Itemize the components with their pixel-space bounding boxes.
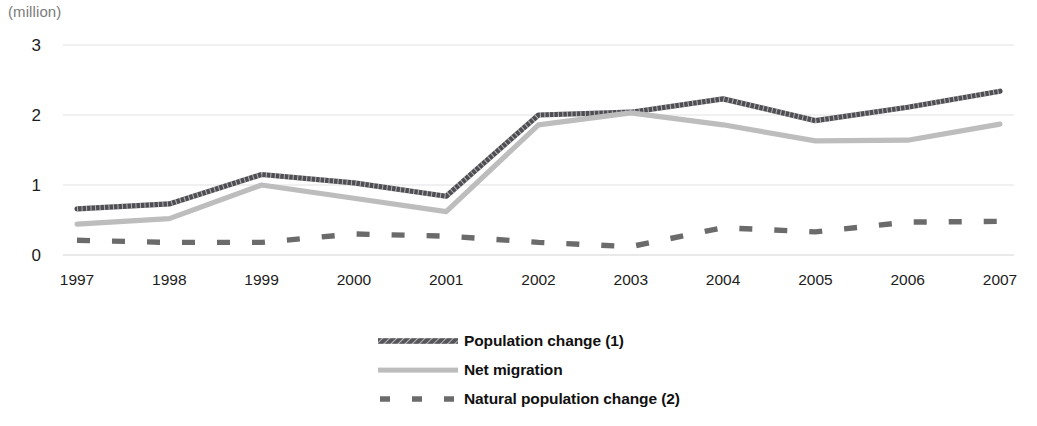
y-axis-tick-label: 3 [32, 37, 41, 54]
plot-area [63, 45, 1014, 255]
x-axis-tick-label: 1998 [152, 272, 186, 288]
dashed-line-swatch [378, 393, 458, 405]
x-axis-tick-label: 2006 [890, 272, 924, 288]
y-axis-tick-label: 1 [32, 177, 41, 194]
legend-item-net-migration[interactable]: Net migration [0, 355, 1037, 384]
x-axis-tick-label: 2004 [706, 272, 740, 288]
x-axis-tick-label: 2005 [798, 272, 832, 288]
x-axis-labels: 1997199819992000200120022003200420052006… [63, 272, 1014, 296]
x-axis-tick-label: 1997 [60, 272, 94, 288]
x-axis-tick-label: 2007 [983, 272, 1017, 288]
series-line-1 [77, 113, 1000, 224]
legend-item-population-change[interactable]: Population change (1) [0, 326, 1037, 355]
solid-line-swatch [378, 364, 458, 376]
legend-label-net-migration: Net migration [464, 361, 563, 379]
legend-label-population-change: Population change (1) [464, 332, 624, 350]
legend-label-natural-population-change: Natural population change (2) [464, 390, 680, 408]
plot-svg [63, 45, 1014, 255]
x-axis-tick-label: 2002 [521, 272, 555, 288]
y-axis-tick-label: 0 [32, 247, 41, 264]
hatched-line-swatch [378, 335, 458, 347]
gridlines [63, 45, 1014, 255]
x-axis-tick-label: 2003 [614, 272, 648, 288]
chart-container: (million) 0123 1997199819992000200120022… [0, 0, 1037, 426]
x-axis-tick-label: 2001 [429, 272, 463, 288]
series-line-0-hatch [77, 91, 1000, 209]
chart-legend: Population change (1) Net migration Natu… [0, 326, 1037, 413]
y-axis-labels: 0123 [0, 0, 63, 300]
x-axis-tick-label: 2000 [337, 272, 371, 288]
series-line-2 [77, 221, 1000, 246]
y-axis-tick-label: 2 [32, 107, 41, 124]
legend-item-natural-population-change[interactable]: Natural population change (2) [0, 384, 1037, 413]
x-axis-tick-label: 1999 [244, 272, 278, 288]
